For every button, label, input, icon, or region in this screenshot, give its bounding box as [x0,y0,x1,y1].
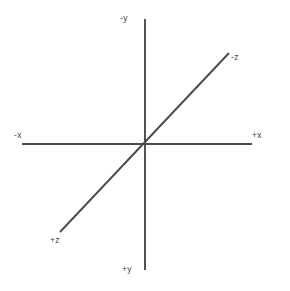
axis-label-positive-y: +y [122,264,132,274]
axes-canvas [0,0,290,291]
axis-label-negative-x: -x [14,130,22,140]
axis-label-negative-z: -z [231,52,239,62]
axis-label-positive-x: +x [252,130,262,140]
axis-label-negative-y: -y [120,13,128,23]
axis-label-positive-z: +z [50,235,60,245]
coordinate-axes-diagram: -y +y -x +x -z +z [0,0,290,291]
